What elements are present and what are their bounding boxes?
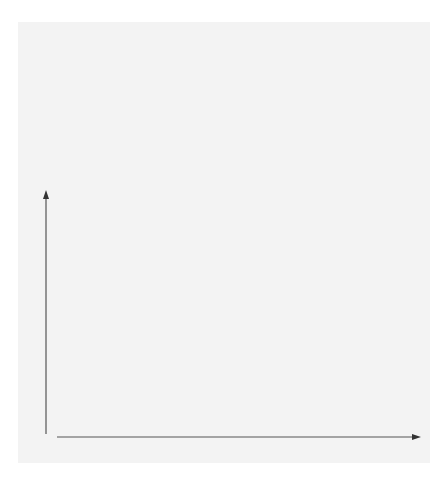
y-axis-arrow-icon: [43, 190, 49, 199]
precipitin-curve-chart: [0, 0, 446, 479]
x-axis-arrow-icon: [412, 434, 421, 440]
